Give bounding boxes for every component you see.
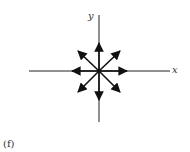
arrow-up-right bbox=[99, 51, 120, 71]
y-axis-label: y bbox=[88, 10, 94, 21]
vector-field-diagram bbox=[0, 0, 190, 152]
x-axis-label: x bbox=[172, 64, 178, 75]
figure-caption: (f) bbox=[3, 138, 15, 149]
arrow-up-left bbox=[78, 51, 99, 71]
arrow-down-left bbox=[78, 71, 99, 92]
arrow-down-right bbox=[99, 71, 120, 92]
origin-point bbox=[98, 70, 101, 73]
